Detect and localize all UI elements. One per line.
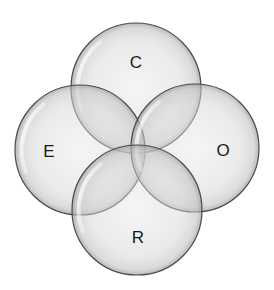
label-r: R: [132, 228, 144, 247]
label-c: C: [130, 53, 142, 72]
label-e: E: [43, 142, 54, 161]
label-o: O: [216, 141, 229, 160]
venn-diagram: C E O R: [0, 0, 274, 290]
circle-r: [72, 145, 202, 275]
